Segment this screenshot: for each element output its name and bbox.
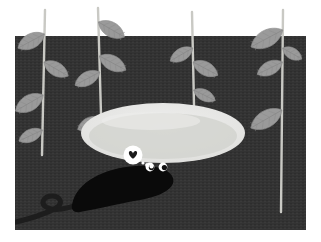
- puddle-highlight: [102, 112, 200, 130]
- puddle: [81, 103, 245, 163]
- bubble-trail-1: [145, 163, 149, 167]
- illustration-scene: [0, 0, 321, 242]
- eye-right-pupil: [162, 165, 167, 170]
- bubble-trail-2: [149, 164, 153, 168]
- illustration-canvas: [0, 0, 321, 242]
- bubble-trail-0: [141, 161, 144, 164]
